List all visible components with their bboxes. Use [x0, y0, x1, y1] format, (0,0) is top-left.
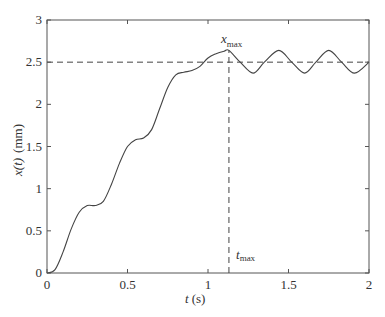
y-tick-label: 1.5 — [26, 139, 42, 154]
xmax-annotation: xmax — [220, 31, 243, 49]
y-tick-label: 3 — [36, 12, 43, 27]
y-tick-label: 0 — [36, 265, 43, 280]
x-tick-label: 0.5 — [119, 277, 135, 292]
x-tick-label: 1 — [205, 277, 212, 292]
y-tick-label: 0.5 — [26, 223, 42, 238]
axis-ticks: 00.511.5200.511.522.53 — [26, 12, 373, 292]
x-axis-label: t(s) — [185, 291, 205, 306]
response-curve — [47, 50, 369, 273]
plot-area — [47, 20, 369, 273]
x-tick-label: 2 — [366, 277, 373, 292]
y-tick-label: 2.5 — [26, 54, 42, 69]
tmax-annotation: tmax — [236, 247, 256, 263]
chart: 00.511.5200.511.522.53 t(s) x(t)(mm) xma… — [0, 0, 385, 317]
y-tick-label: 1 — [36, 181, 43, 196]
x-tick-label: 0 — [44, 277, 51, 292]
y-tick-label: 2 — [36, 96, 43, 111]
x-tick-label: 1.5 — [280, 277, 296, 292]
y-axis-label: x(t)(mm) — [10, 124, 25, 177]
